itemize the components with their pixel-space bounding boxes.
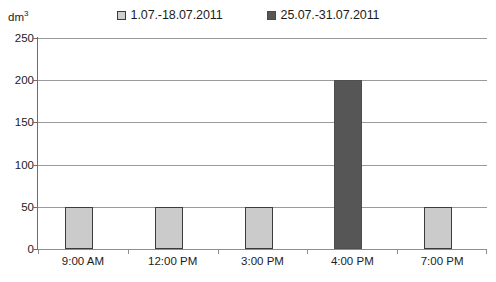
bar-chart: 1.07.-18.07.2011 25.07.-31.07.2011 dm3 0… (0, 0, 496, 282)
y-axis-tick-label-200: 200 (0, 74, 34, 86)
x-axis-tick-3 (307, 249, 308, 254)
y-axis-tick-label-250: 250 (0, 32, 34, 44)
legend-label-series-a: 1.07.-18.07.2011 (131, 8, 223, 22)
y-axis-tick-label-50: 50 (0, 201, 34, 213)
x-axis-labels: 9:00 AM12:00 PM3:00 PM4:00 PM7:00 PM (38, 255, 487, 273)
x-axis-label-12-00-pm: 12:00 PM (148, 255, 197, 267)
x-axis-label-3-00-pm: 3:00 PM (241, 255, 284, 267)
bar-9-00-am (65, 207, 93, 249)
bar-12-00-pm (155, 207, 183, 249)
chart-legend: 1.07.-18.07.2011 25.07.-31.07.2011 (0, 4, 496, 26)
legend-swatch-icon-series-b (267, 11, 276, 20)
bar-7-00-pm (424, 207, 452, 249)
legend-entry-series-a: 1.07.-18.07.2011 (117, 8, 223, 22)
y-axis-tick-label-0: 0 (0, 243, 34, 255)
bars-layer (38, 38, 487, 249)
x-axis-tick-2 (218, 249, 219, 254)
y-axis-labels: 050100150200250 (0, 0, 34, 282)
x-axis-ticks (38, 249, 487, 254)
x-axis-tick-5 (486, 249, 487, 254)
x-axis-label-4-00-pm: 4:00 PM (331, 255, 374, 267)
x-axis-tick-4 (397, 249, 398, 254)
x-axis-label-7-00-pm: 7:00 PM (421, 255, 464, 267)
legend-swatch-icon-series-a (117, 11, 126, 20)
legend-label-series-b: 25.07.-31.07.2011 (281, 8, 380, 22)
x-axis-tick-0 (38, 249, 39, 254)
y-axis-tick-label-100: 100 (0, 159, 34, 171)
bar-4-00-pm (334, 80, 362, 249)
legend-entry-series-b: 25.07.-31.07.2011 (267, 8, 380, 22)
y-axis-tick-label-150: 150 (0, 116, 34, 128)
x-axis-label-9-00-am: 9:00 AM (62, 255, 104, 267)
x-axis-tick-1 (128, 249, 129, 254)
bar-3-00-pm (245, 207, 273, 249)
